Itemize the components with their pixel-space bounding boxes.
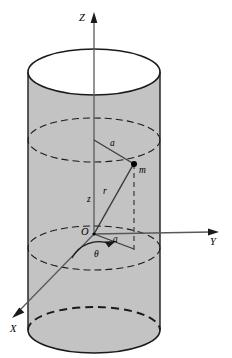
y-axis-arrowhead bbox=[208, 228, 219, 235]
cylindrical-coordinates-figure: Z Y X O m a a z r θ bbox=[0, 0, 232, 358]
radius-a-base-label: a bbox=[113, 235, 118, 245]
mass-point-marker bbox=[131, 161, 137, 167]
z-axis-arrowhead bbox=[91, 12, 98, 23]
y-axis-label: Y bbox=[210, 237, 216, 248]
mass-label: m bbox=[139, 166, 146, 176]
x-axis-label: X bbox=[10, 324, 16, 335]
theta-angle-label: θ bbox=[94, 250, 99, 260]
figure-canvas bbox=[0, 0, 232, 358]
origin-label: O bbox=[81, 227, 89, 238]
radius-a-upper-label: a bbox=[110, 139, 115, 149]
z-axis-label: Z bbox=[79, 13, 85, 24]
origin-point-marker bbox=[92, 232, 95, 235]
height-z-label: z bbox=[87, 195, 91, 205]
position-vector-r-label: r bbox=[103, 187, 107, 197]
x-axis-arrowhead bbox=[12, 307, 24, 318]
